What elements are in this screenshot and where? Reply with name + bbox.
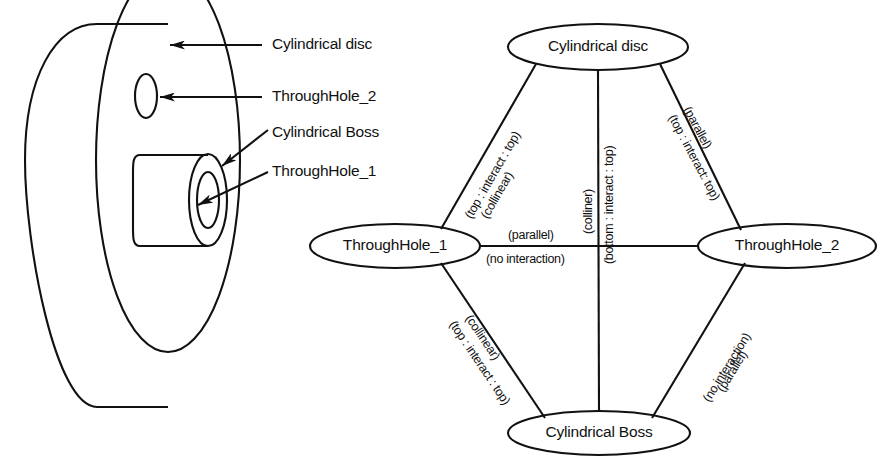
node-label-cylindrical-boss[interactable]: Cylindrical Boss xyxy=(508,423,690,441)
edge-label-disc-to-boss-line2: (bottom : interact : top) xyxy=(602,146,616,264)
callout-label-cylindrical-boss: Cylindrical Boss xyxy=(272,123,379,141)
node-label-throughhole-1[interactable]: ThroughHole_1 xyxy=(310,236,480,254)
disc-front-face xyxy=(96,0,240,352)
edge-hole2-to-boss xyxy=(652,263,745,418)
disc-rear-profile xyxy=(25,24,97,407)
callout-label-throughhole-1: ThroughHole_1 xyxy=(272,162,376,180)
figure-canvas: Cylindrical disc ThroughHole_2 Cylindric… xyxy=(0,0,894,475)
edge-label-hole1-to-hole2-line1: (parallel) xyxy=(508,228,554,242)
throughhole-2-opening xyxy=(135,74,157,118)
edge-label-disc-to-boss-line1: (colliner) xyxy=(581,189,595,234)
leader-cylindrical-boss xyxy=(222,130,268,166)
callout-label-throughhole-2: ThroughHole_2 xyxy=(272,87,376,105)
edge-disc-to-boss xyxy=(598,70,599,411)
node-label-cylindrical-disc[interactable]: Cylindrical disc xyxy=(508,37,688,55)
leader-throughhole-1 xyxy=(198,172,268,205)
node-label-throughhole-2[interactable]: ThroughHole_2 xyxy=(698,236,876,254)
callout-label-cylindrical-disc: Cylindrical disc xyxy=(272,35,372,53)
edge-label-hole1-to-hole2-line2: (no interaction) xyxy=(486,252,565,266)
